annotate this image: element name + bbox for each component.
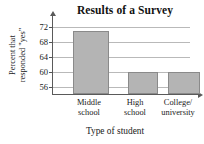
y-tick-label: 72	[39, 23, 48, 32]
category-label-line-1: College/	[152, 98, 204, 108]
y-axis-title-line-1: Percent that	[8, 28, 19, 83]
tick-mark	[49, 27, 53, 28]
category-label-college-university: College/ university	[152, 98, 204, 118]
category-label-line-1: Middle	[62, 98, 116, 108]
category-label-line-2: school	[62, 108, 116, 118]
chart-title: Results of a Survey	[50, 4, 200, 16]
survey-bar-chart: Results of a Survey Percent that respond…	[0, 0, 204, 144]
bar-high-school	[128, 72, 158, 94]
tick-mark	[49, 87, 53, 88]
y-tick-label: 60	[39, 68, 48, 77]
plot-area: 72 68 64 60 56	[52, 22, 190, 94]
category-label-middle-school: Middle school	[62, 98, 116, 118]
category-label-line-2: university	[152, 108, 204, 118]
y-axis-title: Percent that responded "yes"	[0, 13, 60, 97]
x-axis-line	[52, 94, 198, 95]
gridline	[52, 27, 190, 28]
y-tick-label: 56	[39, 82, 48, 91]
tick-mark	[49, 42, 53, 43]
y-axis-arrow-icon	[50, 11, 56, 16]
y-tick-label: 68	[39, 38, 48, 47]
tick-mark	[49, 57, 53, 58]
bar-middle-school	[73, 31, 109, 94]
y-tick-label: 64	[39, 53, 48, 62]
y-axis-title-line-2: responded "yes"	[18, 28, 29, 83]
tick-mark	[49, 72, 53, 73]
x-axis-title: Type of student	[40, 126, 190, 136]
bar-college-university	[168, 72, 200, 94]
